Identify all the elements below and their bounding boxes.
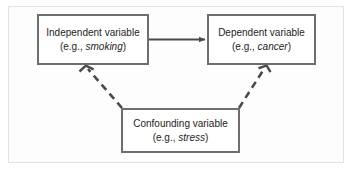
node-confounding-example-prefix: (e.g., — [153, 132, 179, 143]
node-dependent-example-suffix: ) — [288, 41, 291, 52]
node-independent-variable: Independent variable (e.g., smoking) — [37, 14, 149, 65]
node-confounding-example-suffix: ) — [205, 132, 208, 143]
node-dependent-example: (e.g., cancer) — [232, 41, 291, 53]
node-independent-example: (e.g., smoking) — [60, 41, 126, 53]
node-independent-title: Independent variable — [46, 27, 139, 39]
node-dependent-variable: Dependent variable (e.g., cancer) — [207, 14, 316, 65]
node-confounding-example-value: stress — [178, 132, 205, 143]
node-independent-example-value: smoking — [85, 41, 122, 52]
node-confounding-variable: Confounding variable (e.g., stress) — [121, 108, 240, 153]
node-dependent-example-value: cancer — [258, 41, 288, 52]
arrowhead-confounding-to-dependent — [259, 65, 271, 72]
arrowhead-confounding-to-independent — [80, 66, 94, 72]
node-independent-example-suffix: ) — [123, 41, 126, 52]
node-confounding-title: Confounding variable — [133, 118, 228, 130]
arrow-confounding-to-dependent — [239, 69, 264, 108]
node-independent-example-prefix: (e.g., — [60, 41, 86, 52]
arrow-confounding-to-independent — [88, 69, 122, 108]
node-confounding-example: (e.g., stress) — [153, 132, 209, 144]
node-dependent-title: Dependent variable — [218, 27, 305, 39]
node-dependent-example-prefix: (e.g., — [232, 41, 258, 52]
confounding-variable-diagram: Independent variable (e.g., smoking) Dep… — [0, 0, 352, 171]
